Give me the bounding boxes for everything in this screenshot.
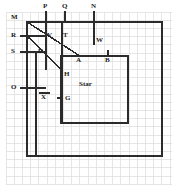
diagonal-M-to-A — [27, 22, 80, 56]
point-label-W: W — [96, 37, 103, 44]
region-label-star: Star — [79, 81, 92, 88]
point-label-P: P — [43, 3, 47, 10]
point-label-O: O — [11, 84, 16, 91]
leader-lines — [20, 11, 108, 98]
point-label-S: S — [11, 48, 15, 55]
point-label-M: M — [11, 14, 18, 21]
point-label-A: A — [76, 57, 81, 64]
diagram-canvas — [0, 0, 176, 195]
geometric-diagram: M P Q N R V T W S U A B H O X G Star — [0, 0, 176, 195]
point-label-T: T — [63, 32, 68, 39]
point-label-V: V — [47, 32, 52, 39]
point-label-X: X — [41, 94, 46, 101]
point-label-H: H — [64, 71, 69, 78]
grid-lines — [6, 12, 172, 185]
point-label-B: B — [105, 57, 110, 64]
point-label-Q: Q — [62, 3, 67, 10]
point-label-N: N — [91, 3, 96, 10]
star-region-rect — [61, 56, 128, 123]
point-label-G: G — [65, 95, 70, 102]
point-label-U: U — [38, 48, 43, 55]
point-label-R: R — [11, 32, 16, 39]
